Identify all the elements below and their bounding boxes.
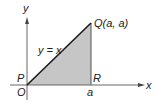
y-axis-arrow-icon [25,17,29,24]
point-r-label: R [93,72,101,84]
point-p-label: P [17,72,25,84]
y-axis-label: y [22,2,30,14]
point-q-label: Q(a, a) [94,17,129,29]
line-label: y = x [37,44,62,56]
x-axis-arrow-icon [138,83,145,87]
triangle-diagram: y x Q(a, a) y = x P O R a [0,0,156,104]
origin-label: O [17,86,26,98]
x-axis-label: x [145,79,152,91]
a-tick-label: a [87,86,93,98]
